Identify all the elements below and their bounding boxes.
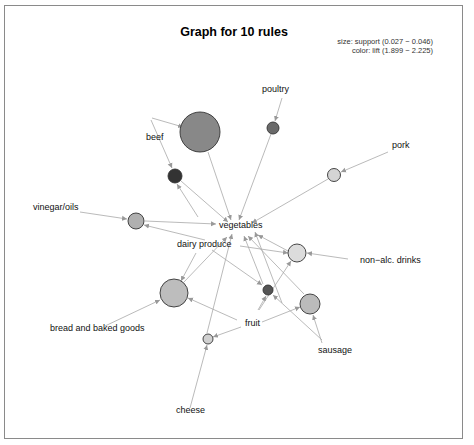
rule-node-r1 xyxy=(180,112,220,152)
rule-node-r6 xyxy=(288,244,306,262)
item-label-dairy_produce: dairy produce xyxy=(177,239,232,249)
rule-node-r9 xyxy=(300,294,320,314)
edge-arrow xyxy=(190,345,207,408)
item-label-sausage: sausage xyxy=(318,345,352,355)
item-label-cheese: cheese xyxy=(176,405,205,415)
item-label-pork: pork xyxy=(392,140,410,150)
rule-node-r3 xyxy=(168,169,182,183)
edge-arrow xyxy=(213,327,241,337)
edges xyxy=(80,98,388,408)
graph-title: Graph for 10 rules xyxy=(180,25,288,39)
edge-arrow xyxy=(341,152,388,172)
item-label-poultry: poultry xyxy=(262,84,290,94)
edge-arrow xyxy=(212,250,262,285)
edge-arrow xyxy=(144,225,205,240)
item-label-beef: beef xyxy=(146,132,164,142)
edge-arrow xyxy=(244,236,263,284)
legend-color: color: lift (1.899 − 2.225) xyxy=(352,46,434,55)
rule-node-r2 xyxy=(267,122,279,134)
rule-node-r5 xyxy=(128,213,144,229)
item-label-bread: bread and baked goods xyxy=(50,323,145,333)
rule-node-r10 xyxy=(203,334,213,344)
edge-arrow xyxy=(152,118,183,127)
edge-arrow xyxy=(258,296,266,310)
item-label-vinegar_oils: vinegar/oils xyxy=(33,202,79,212)
item-label-non_alc_drinks: non−alc. drinks xyxy=(360,255,421,265)
rules-graph: Graph for 10 rules size: support (0.027 … xyxy=(0,0,474,445)
rule-node-r4 xyxy=(328,169,341,182)
edge-arrow xyxy=(80,212,127,219)
edge-arrow xyxy=(151,120,172,168)
edge-arrow xyxy=(145,221,216,224)
edge-arrow xyxy=(188,298,237,320)
item-label-vegetables: vegetables xyxy=(219,220,263,230)
edge-arrow xyxy=(252,179,328,223)
legend-size: size: support (0.027 − 0.046) xyxy=(337,37,433,46)
edge-arrow xyxy=(307,253,348,259)
edge-arrow xyxy=(208,152,231,220)
edge-arrow xyxy=(239,134,271,220)
edge-arrow xyxy=(258,235,288,251)
item-label-fruit: fruit xyxy=(245,318,261,328)
edge-arrow xyxy=(177,184,198,217)
rule-node-r8 xyxy=(263,285,273,295)
rule-node-r7 xyxy=(160,279,188,307)
edge-arrow xyxy=(275,98,282,121)
item-labels: poultrybeefporkvinegar/oilsvegetablesdai… xyxy=(33,84,421,415)
